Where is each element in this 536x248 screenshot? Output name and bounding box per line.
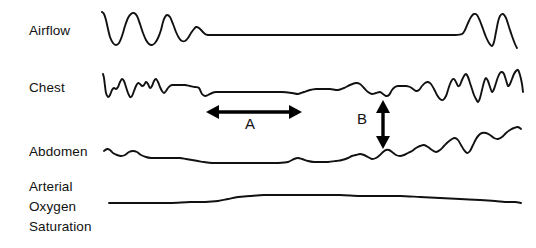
trace-arterial-oxygen-saturation: [109, 195, 521, 203]
polysomnography-figure: Airflow Chest Abdomen Arterial Oxygen Sa…: [0, 0, 536, 248]
arrow-head-down-icon: [376, 136, 390, 149]
marker-arrow-a: [206, 105, 302, 119]
arrow-head-up-icon: [376, 100, 390, 113]
arrow-head-right-icon: [289, 105, 302, 119]
arrow-head-left-icon: [206, 105, 219, 119]
waveform-canvas: [0, 0, 536, 248]
marker-arrow-b: [376, 100, 390, 149]
trace-abdomen: [104, 127, 521, 163]
trace-chest: [103, 70, 523, 102]
trace-airflow: [102, 12, 517, 48]
trace-group: [102, 12, 523, 203]
